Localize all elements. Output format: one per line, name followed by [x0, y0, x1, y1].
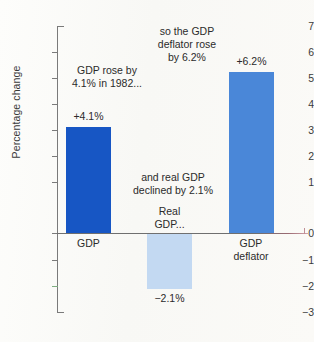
category-label-gdp-deflator: GDP deflator: [217, 237, 285, 262]
y-tick-0: [52, 233, 57, 234]
y-label-1: 1: [268, 177, 314, 188]
category-label-real-gdp-line2: GDP...: [137, 218, 202, 231]
annotation-deflator-rose-line1: so the GDP: [144, 25, 230, 38]
y-axis-bottom-cap: [57, 312, 64, 313]
y-axis-top-cap: [57, 26, 64, 27]
annotation-gdp-rose: GDP rose by 4.1% in 1982...: [47, 64, 167, 90]
y-tick-minus-2: [52, 286, 58, 287]
category-label-gdp: GDP: [56, 237, 121, 250]
annotation-real-gdp-declined-line2: declined by 2.1%: [123, 184, 223, 197]
y-label-minus-2: −2: [268, 281, 314, 292]
bar-real-gdp[interactable]: [147, 234, 192, 289]
annotation-real-gdp-declined-line1: and real GDP: [123, 171, 223, 184]
category-label-real-gdp-line1: Real: [137, 205, 202, 218]
category-label-real-gdp: Real GDP...: [137, 205, 202, 230]
y-label-3: 3: [268, 125, 314, 136]
y-tick-2: [52, 156, 58, 157]
category-label-gdp-deflator-line1: GDP: [217, 237, 285, 250]
y-label-7: 7: [268, 21, 314, 32]
value-label-real-gdp: −2.1%: [137, 292, 202, 304]
annotation-deflator-rose: so the GDP deflator rose by 6.2%: [144, 25, 230, 64]
value-label-gdp: +4.1%: [56, 110, 121, 122]
annotation-gdp-rose-line2: 4.1% in 1982...: [47, 77, 167, 90]
y-tick-minus-1: [52, 260, 58, 261]
y-tick-3: [52, 130, 58, 131]
y-tick-6: [52, 52, 58, 53]
annotation-gdp-rose-line1: GDP rose by: [47, 64, 167, 77]
y-label-5: 5: [268, 73, 314, 84]
y-label-2: 2: [268, 151, 314, 162]
bar-gdp[interactable]: [66, 127, 111, 233]
y-label-4: 4: [268, 99, 314, 110]
category-label-gdp-deflator-line2: deflator: [217, 250, 285, 263]
annotation-real-gdp-declined: and real GDP declined by 2.1%: [123, 171, 223, 197]
y-label-minus-3: −3: [268, 307, 314, 318]
annotation-deflator-rose-line2: deflator rose: [144, 38, 230, 51]
bar-chart: 7 6 5 4 3 2 1 0 −1 −2 −3 Percentage chan…: [0, 0, 314, 342]
y-tick-4: [52, 104, 58, 105]
annotation-deflator-rose-line3: by 6.2%: [144, 51, 230, 64]
bar-gdp-deflator[interactable]: [229, 72, 274, 233]
y-axis-title: Percentage change: [10, 52, 22, 172]
y-tick-1: [52, 182, 58, 183]
